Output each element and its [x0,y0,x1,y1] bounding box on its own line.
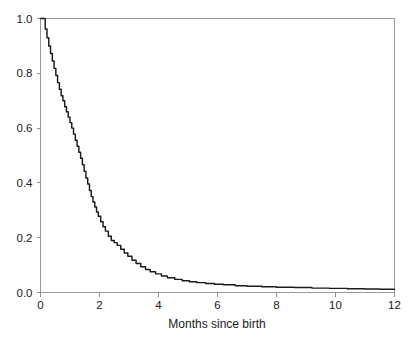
x-tick-label: 10 [329,299,342,311]
y-tick-label: 0.8 [17,67,33,79]
y-tick-label: 1.0 [17,13,33,25]
y-tick-label: 0.2 [17,232,33,244]
x-tick-label: 6 [214,299,220,311]
y-tick-label: 0.4 [17,177,34,189]
figure-background [0,0,418,341]
y-tick-label: 0.0 [17,287,33,299]
x-tick-label: 12 [388,299,401,311]
y-tick-label: 0.6 [17,122,33,134]
x-tick-label: 0 [37,299,43,311]
x-tick-label: 8 [273,299,279,311]
x-tick-label: 2 [96,299,102,311]
x-axis-title: Months since birth [168,317,265,331]
survival-curve-figure: 0.00.20.40.60.81.0 024681012 Months sinc… [0,0,418,341]
x-tick-label: 4 [155,299,162,311]
